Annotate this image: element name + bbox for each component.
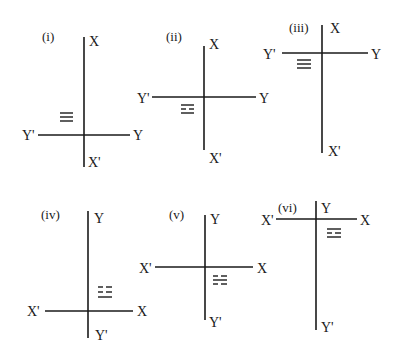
horizontal-left-label: X'	[139, 261, 152, 276]
horizontal-left-label: X'	[261, 213, 274, 228]
vertical-top-label: Y	[94, 211, 104, 226]
vertical-bottom-label: Y'	[95, 328, 108, 343]
horizontal-left-label: Y'	[137, 91, 150, 106]
horizontal-left-label: Y'	[263, 47, 276, 62]
panel-number: (i)	[42, 29, 54, 44]
hatch-icon	[181, 105, 194, 113]
panel-v: (v) Y Y' X' X	[139, 207, 267, 330]
vertical-bottom-label: Y'	[321, 320, 334, 335]
panel-number: (v)	[169, 207, 184, 222]
vertical-bottom-label: X'	[328, 144, 341, 159]
vertical-bottom-label: X'	[88, 155, 101, 170]
horizontal-left-label: X'	[27, 304, 40, 319]
panel-number: (iv)	[41, 207, 60, 222]
panel-i: (i) X X' Y' Y	[22, 29, 143, 170]
vertical-top-label: X	[330, 21, 340, 36]
horizontal-right-label: X	[137, 304, 147, 319]
hatch-icon	[98, 287, 112, 297]
vertical-top-label: Y	[321, 201, 331, 216]
vertical-top-label: X	[209, 37, 219, 52]
hatch-icon	[327, 229, 341, 237]
vertical-top-label: Y	[210, 212, 220, 227]
panel-number: (iii)	[289, 20, 309, 35]
panel-ii: (ii) X X' Y' Y	[137, 29, 269, 166]
horizontal-right-label: X	[257, 261, 267, 276]
horizontal-right-label: X	[360, 213, 370, 228]
vertical-top-label: X	[89, 34, 99, 49]
horizontal-right-label: Y	[133, 128, 143, 143]
vertical-bottom-label: Y'	[209, 315, 222, 330]
horizontal-left-label: Y'	[22, 128, 35, 143]
horizontal-right-label: Y	[259, 91, 269, 106]
panel-number: (vi)	[278, 200, 297, 215]
panel-number: (ii)	[166, 29, 182, 44]
panel-vi: (vi) Y Y' X' X	[261, 200, 370, 335]
hatch-icon	[213, 276, 227, 284]
hatch-icon	[297, 60, 311, 68]
panel-iv: (iv) Y Y' X' X	[27, 207, 147, 343]
axes-diagram: (i) X X' Y' Y (ii) X X' Y' Y (iii) X	[0, 0, 396, 355]
panel-iii: (iii) X X' Y' Y	[263, 20, 381, 159]
horizontal-right-label: Y	[371, 47, 381, 62]
hatch-icon	[60, 113, 73, 121]
vertical-bottom-label: X'	[209, 151, 222, 166]
